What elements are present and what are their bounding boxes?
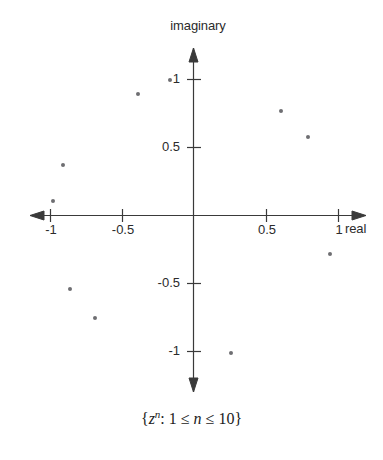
data-point — [168, 78, 172, 82]
caption-le-first: ≤ — [181, 410, 190, 427]
caption-open-brace: { — [141, 410, 149, 427]
real-axis — [30, 211, 366, 220]
real-axis-arrow-left — [30, 211, 44, 220]
imaginary-axis — [189, 48, 198, 392]
x-tick-label-1: 1 — [317, 222, 361, 237]
caption-close-brace: } — [234, 410, 242, 427]
x-tick-label-neg1: -1 — [29, 222, 73, 237]
caption-variable: n — [190, 410, 206, 427]
caption-upper-bound: 10 — [214, 410, 234, 427]
data-point — [306, 135, 310, 139]
plot-area: imaginary real -1 -0.5 0.5 1 1 0.5 -0.5 … — [0, 0, 383, 400]
y-tick-label-0_5: 0.5 — [136, 139, 180, 154]
imaginary-axis-arrow-up — [189, 48, 198, 62]
y-tick-label-neg0_5: -0.5 — [136, 275, 180, 290]
complex-plane-figure: imaginary real -1 -0.5 0.5 1 1 0.5 -0.5 … — [0, 0, 383, 460]
figure-caption: {zn: 1 ≤ n ≤ 10} — [0, 408, 383, 428]
caption-colon: : — [160, 410, 168, 427]
y-tick-label-1: 1 — [136, 71, 180, 86]
axes-svg — [0, 0, 383, 400]
y-tick-label-neg1: -1 — [136, 343, 180, 358]
data-point — [51, 199, 55, 203]
data-point — [93, 316, 97, 320]
caption-lower-bound: 1 — [169, 410, 181, 427]
data-point — [279, 109, 283, 113]
imaginary-axis-label: imaginary — [155, 18, 241, 33]
x-tick-label-neg0_5: -0.5 — [101, 222, 145, 237]
real-axis-arrow-right — [352, 211, 366, 220]
x-tick-label-0_5: 0.5 — [245, 222, 289, 237]
data-point — [328, 252, 332, 256]
imaginary-axis-arrow-down — [189, 378, 198, 392]
